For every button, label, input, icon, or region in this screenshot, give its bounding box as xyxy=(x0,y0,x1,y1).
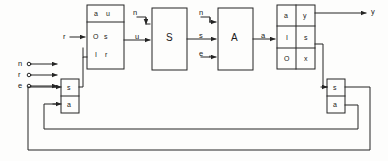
left-selector-row-a: a xyxy=(67,101,71,108)
io-block-cell-a: a xyxy=(284,12,288,19)
observer-body-cell-s: s xyxy=(104,33,108,40)
block-diagram-canvas: n r e r n a u O s I r u S n s e A a a y … xyxy=(0,0,388,161)
io-block-cell-y: y xyxy=(303,12,307,19)
terminal-circle-n xyxy=(27,62,31,66)
wire-n-into-a-corner xyxy=(201,17,210,22)
signal-label-s-to-a: s xyxy=(199,32,203,40)
input-terminal-label-e: e xyxy=(18,82,22,90)
a-block-label: A xyxy=(231,33,238,43)
signal-label-n-to-a: n xyxy=(199,9,203,17)
io-block-cell-I: I xyxy=(286,34,288,41)
io-block-cell-s: s xyxy=(304,34,308,41)
wire-io-to-right-selector xyxy=(315,44,327,87)
reference-input-label-r: r xyxy=(63,33,66,41)
output-label-y: y xyxy=(371,8,375,16)
right-selector-row-s: s xyxy=(333,84,337,91)
s-block-input-label-n: n xyxy=(133,9,137,17)
signal-label-u: u xyxy=(135,33,139,41)
observer-header-cell-a: a xyxy=(94,10,98,17)
signal-label-a-out: a xyxy=(261,32,265,40)
io-block-cell-x: x xyxy=(304,55,308,62)
diagram-vector-layer xyxy=(0,0,388,161)
input-terminal-label-n: n xyxy=(18,60,22,68)
observer-header-cell-u: u xyxy=(106,10,110,17)
observer-body-cell-r: r xyxy=(105,51,108,58)
signal-label-e-to-a: e xyxy=(199,50,203,58)
feedback-inner-loop xyxy=(44,104,358,129)
wire-n-into-s-corner xyxy=(137,17,146,22)
terminal-circle-r xyxy=(27,73,31,77)
io-block-cell-O: O xyxy=(284,55,290,62)
left-selector-row-s: s xyxy=(67,84,71,91)
s-block-label: S xyxy=(166,33,173,43)
wire-left-selector-s-to-observer xyxy=(79,57,87,87)
right-selector-row-a: a xyxy=(333,101,337,108)
input-terminal-label-r: r xyxy=(18,71,21,79)
observer-body-cell-I: I xyxy=(95,51,97,58)
observer-body-cell-O: O xyxy=(93,33,99,40)
